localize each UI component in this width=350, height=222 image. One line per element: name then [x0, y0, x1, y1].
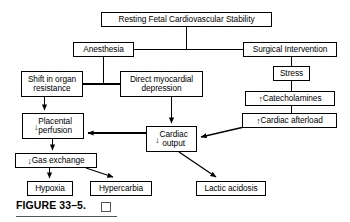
node-label: Hypoxia [35, 184, 65, 193]
node-cardiac-afterload: ↑Cardiac afterload [242, 113, 337, 128]
node-gas-exchange: ↓Gas exchange [15, 153, 97, 168]
node-label: Direct myocardial depression [130, 75, 193, 94]
node-label: Placental perfusion [38, 117, 72, 136]
square-outline-icon [101, 202, 111, 212]
node-label: Hypercarbia [99, 184, 143, 193]
node-label: Cardiac afterload [260, 116, 322, 125]
node-label: Gas exchange [32, 156, 85, 165]
node-direct-myocardial-depression: Direct myocardial depression [120, 71, 203, 97]
node-label: Shift in organ resistance [28, 75, 76, 94]
node-label: Cardiac output [160, 130, 188, 149]
node-hypercarbia: Hypercarbia [90, 181, 152, 196]
node-anesthesia: Anesthesia [73, 42, 134, 57]
edge-afterload-cardiacoutput [201, 128, 242, 138]
up-arrow-icon: ↑ [256, 117, 260, 126]
node-label: Anesthesia [83, 45, 124, 54]
edge-cardiacoutput-lactic [179, 152, 216, 177]
down-arrow-icon: ↓ [34, 122, 38, 131]
node-label: Catecholamines [263, 94, 322, 103]
figure-caption: FIGURE 33–5. [16, 199, 86, 211]
node-lactic-acidosis: Lactic acidosis [196, 181, 266, 196]
node-label: Lactic acidosis [204, 184, 257, 193]
node-label: Resting Fetal Cardiovascular Stability [119, 15, 255, 24]
down-arrow-icon: ↓ [27, 157, 31, 166]
node-shift-in-organ-resistance: Shift in organ resistance [21, 71, 83, 97]
node-stress: Stress [273, 66, 310, 81]
node-placental-perfusion: ↓Placental perfusion [22, 113, 84, 139]
node-label: Surgical Intervention [253, 45, 328, 54]
node-resting-fetal-cardiovascular-stability: Resting Fetal Cardiovascular Stability [101, 12, 272, 27]
node-hypoxia: Hypoxia [27, 181, 73, 196]
down-arrow-icon: ↓ [155, 135, 159, 144]
edge-gasexchange-hypercarbia [86, 168, 113, 177]
figure-flowchart: Resting Fetal Cardiovascular Stability A… [0, 0, 350, 222]
node-cardiac-output: ↓Cardiac output [146, 126, 197, 152]
node-label: Stress [280, 69, 303, 78]
caption-divider [16, 216, 117, 217]
up-arrow-icon: ↑ [258, 95, 262, 104]
node-surgical-intervention: Surgical Intervention [243, 42, 337, 57]
node-catecholamines: ↑Catecholamines [245, 91, 335, 106]
